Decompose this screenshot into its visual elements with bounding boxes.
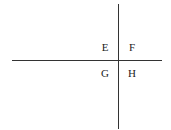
- quadrant-label-top-right: F: [126, 42, 138, 53]
- vertical-axis: [118, 4, 119, 129]
- quadrant-label-bottom-right: H: [126, 68, 138, 79]
- quadrant-label-bottom-left: G: [99, 68, 111, 79]
- quadrant-label-top-left: E: [99, 42, 111, 53]
- horizontal-axis: [12, 60, 162, 61]
